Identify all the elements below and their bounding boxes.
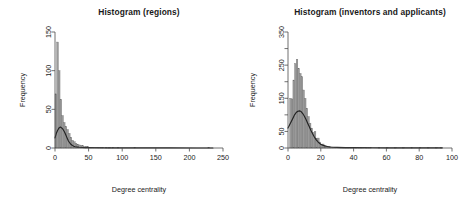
y-tick-label: 50 <box>44 105 53 113</box>
y-tick-label: 0 <box>44 146 53 150</box>
histogram-bar <box>63 122 65 148</box>
x-tick-label: 200 <box>183 153 195 162</box>
panel-histogram-regions: Histogram (regions)050100150200250050100… <box>0 0 230 210</box>
chart-svg-inventors-applicants: Histogram (inventors and applicants)0204… <box>230 0 459 210</box>
x-tick-label: 60 <box>382 153 390 162</box>
y-tick-label: 350 <box>277 26 286 38</box>
x-tick-label: 150 <box>150 153 162 162</box>
x-tick-label: 40 <box>349 153 357 162</box>
histogram-bar <box>306 108 308 148</box>
histogram-bar <box>304 98 306 148</box>
histogram-bars <box>55 42 210 148</box>
histogram-bar <box>291 99 293 148</box>
histogram-bar <box>296 59 298 148</box>
histogram-bar <box>302 90 304 148</box>
chart-title: Histogram (regions) <box>98 7 180 17</box>
x-tick-label: 80 <box>415 153 423 162</box>
histogram-bar <box>307 117 309 148</box>
histogram-bar <box>294 63 296 148</box>
x-tick-label: 100 <box>116 153 128 162</box>
x-tick-label: 50 <box>85 153 93 162</box>
chart-title: Histogram (inventors and applicants) <box>294 7 446 17</box>
histogram-bar <box>292 80 294 148</box>
x-tick-label: 250 <box>217 153 229 162</box>
y-axis-label: Frequency <box>248 73 257 107</box>
histogram-bar <box>72 140 74 148</box>
x-axis-label: Degree centrality <box>342 185 397 194</box>
y-axis-label: Frequency <box>18 73 27 107</box>
histogram-bar <box>58 71 60 148</box>
x-axis-label: Degree centrality <box>112 185 167 194</box>
figure-two-histograms: Histogram (regions)050100150200250050100… <box>0 0 459 210</box>
chart-svg-regions: Histogram (regions)050100150200250050100… <box>0 0 230 210</box>
x-tick-label: 100 <box>446 153 458 162</box>
y-tick-label: 50 <box>277 127 286 135</box>
y-tick-label: 150 <box>44 26 53 38</box>
x-tick-label: 0 <box>53 153 57 162</box>
x-tick-label: 20 <box>316 153 324 162</box>
histogram-bar <box>70 137 72 148</box>
y-tick-label: 250 <box>277 59 286 71</box>
histogram-bar <box>60 99 62 148</box>
histogram-bar <box>297 68 299 148</box>
y-tick-label: 100 <box>44 65 53 77</box>
histogram-bar <box>62 116 64 148</box>
x-tick-label: 0 <box>286 153 290 162</box>
panel-histogram-inventors-applicants: Histogram (inventors and applicants)0204… <box>230 0 459 210</box>
y-tick-label: 150 <box>277 92 286 104</box>
y-tick-label: 0 <box>277 146 286 150</box>
